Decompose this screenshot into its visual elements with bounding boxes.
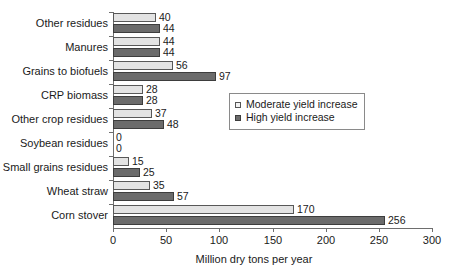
- open-square-marker-icon: [235, 102, 241, 108]
- bar-moderate[interactable]: [113, 37, 160, 46]
- bar-moderate[interactable]: [113, 109, 152, 118]
- bar-value-label: 40: [159, 12, 171, 22]
- category-label: Grains to biofuels: [0, 65, 108, 77]
- x-axis-title-text: Million dry tons per year: [196, 253, 313, 265]
- bar-value-label: 0: [116, 132, 122, 142]
- x-tick-label: 300: [423, 234, 441, 246]
- bar-group: 5697: [113, 60, 432, 84]
- filled-square-marker-icon: [235, 115, 241, 121]
- bar-group: 170256: [113, 204, 432, 228]
- bar-value-label: 48: [167, 119, 179, 129]
- bar-value-label: 56: [176, 60, 188, 70]
- category-label: CRP biomass: [0, 89, 108, 101]
- bar-moderate[interactable]: [113, 205, 294, 214]
- x-tick-label: 150: [264, 234, 282, 246]
- bar-value-label: 28: [146, 95, 158, 105]
- bar-moderate[interactable]: [113, 157, 129, 166]
- category-label: Other crop residues: [0, 113, 108, 125]
- x-tick-label: 250: [370, 234, 388, 246]
- bar-value-label: 57: [177, 191, 189, 201]
- bar-value-label: 170: [297, 204, 315, 214]
- bar-high[interactable]: [113, 72, 216, 81]
- bar-moderate[interactable]: [113, 13, 156, 22]
- bar-value-label: 28: [146, 84, 158, 94]
- bar-group: 00: [113, 132, 432, 156]
- bar-high[interactable]: [113, 96, 143, 105]
- x-tick: [379, 228, 380, 232]
- bar-group: 3557: [113, 180, 432, 204]
- x-tick-label: 200: [317, 234, 335, 246]
- bar-value-label: 15: [132, 156, 144, 166]
- bar-moderate[interactable]: [113, 181, 150, 190]
- x-tick: [273, 228, 274, 232]
- bar-high[interactable]: [113, 192, 174, 201]
- bar-group: 1525: [113, 156, 432, 180]
- bar-high[interactable]: [113, 216, 385, 225]
- legend-label-moderate: Moderate yield increase: [246, 98, 357, 111]
- bar-moderate[interactable]: [113, 61, 173, 70]
- bar-value-label: 37: [155, 108, 167, 118]
- x-tick-label: 0: [110, 234, 116, 246]
- category-label: Small grains residues: [0, 161, 108, 173]
- bar-value-label: 97: [219, 71, 231, 81]
- bar-value-label: 25: [143, 167, 155, 177]
- x-tick: [113, 228, 114, 232]
- bar-value-label: 44: [163, 23, 175, 33]
- bar-value-label: 44: [163, 47, 175, 57]
- x-tick-label: 100: [210, 234, 228, 246]
- x-tick: [166, 228, 167, 232]
- bar-high[interactable]: [113, 48, 160, 57]
- x-axis-title: Million dry tons per year: [0, 253, 465, 265]
- chart-legend: Moderate yield increase High yield incre…: [229, 93, 365, 130]
- bar-value-label: 0: [116, 143, 122, 153]
- bar-high[interactable]: [113, 168, 140, 177]
- x-tick: [326, 228, 327, 232]
- x-tick: [432, 228, 433, 232]
- bar-group: 4444: [113, 36, 432, 60]
- x-tick-label: 50: [160, 234, 172, 246]
- category-label: Other residues: [0, 17, 108, 29]
- legend-item-moderate[interactable]: Moderate yield increase: [235, 98, 357, 111]
- bar-chart: Other residuesManuresGrains to biofuelsC…: [0, 0, 465, 278]
- x-tick: [219, 228, 220, 232]
- category-label: Corn stover: [0, 209, 108, 221]
- bar-value-label: 256: [388, 215, 406, 225]
- category-label: Soybean residues: [0, 137, 108, 149]
- bar-moderate[interactable]: [113, 85, 143, 94]
- legend-item-high[interactable]: High yield increase: [235, 111, 357, 124]
- bar-group: 4044: [113, 12, 432, 36]
- category-label: Wheat straw: [0, 185, 108, 197]
- legend-label-high: High yield increase: [246, 111, 335, 124]
- bar-high[interactable]: [113, 120, 164, 129]
- bar-value-label: 44: [163, 36, 175, 46]
- bar-value-label: 35: [153, 180, 165, 190]
- category-label: Manures: [0, 41, 108, 53]
- bar-high[interactable]: [113, 24, 160, 33]
